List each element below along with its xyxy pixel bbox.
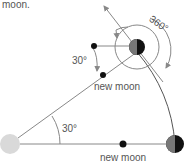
angle-label-upper: 30° <box>72 56 87 66</box>
moon-small-mid <box>100 72 106 78</box>
orbit-path <box>137 52 175 144</box>
moon-small-upper-left <box>91 43 97 49</box>
moon-small-lower <box>120 141 127 148</box>
new-moon-label-lower: new moon <box>100 153 146 163</box>
moon-large-upper <box>129 39 145 55</box>
angle-label-lower: 30° <box>62 124 77 134</box>
synodic-month-diagram: moon. 30° 30° 360° new moon new moon <box>0 0 186 164</box>
angle-arrow-upper <box>93 48 97 71</box>
moon-large-lower <box>166 135 184 153</box>
caption-fragment: moon. <box>2 0 30 10</box>
angle-arc-lower <box>52 116 60 144</box>
rotation-arrow-down <box>116 30 117 38</box>
new-moon-label-upper: new moon <box>94 82 140 92</box>
earth-icon <box>0 134 20 154</box>
